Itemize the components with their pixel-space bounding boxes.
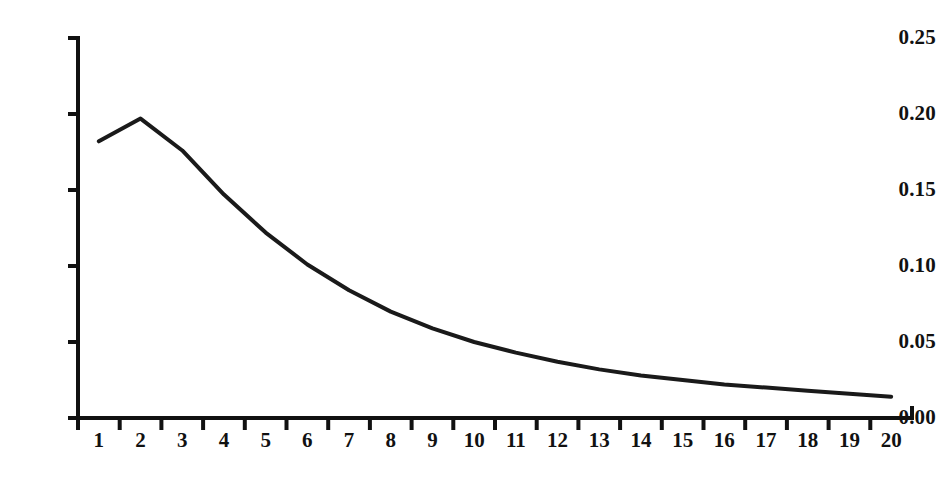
y-tick-label: 0.10 [874, 255, 936, 276]
y-tick-label: 0.20 [874, 103, 936, 124]
data-series-line [99, 119, 891, 397]
y-tick-label: 0.25 [874, 27, 936, 48]
x-tick-label: 13 [577, 430, 621, 451]
x-tick-label: 1 [77, 430, 121, 451]
y-tick-label: 0.05 [874, 331, 936, 352]
y-tick-label: 0.15 [874, 179, 936, 200]
x-tick-label: 6 [285, 430, 329, 451]
x-tick-label: 3 [160, 430, 204, 451]
x-tick-label: 14 [619, 430, 663, 451]
x-tick-label: 15 [661, 430, 705, 451]
chart-plot-area [0, 0, 936, 488]
y-tick-label: 0.00 [874, 407, 936, 428]
x-tick-label: 18 [786, 430, 830, 451]
x-tick-label: 20 [869, 430, 913, 451]
x-tick-label: 12 [536, 430, 580, 451]
x-tick-label: 10 [452, 430, 496, 451]
x-tick-label: 8 [369, 430, 413, 451]
x-axis-ticks [78, 406, 912, 430]
x-tick-label: 17 [744, 430, 788, 451]
x-tick-label: 5 [244, 430, 288, 451]
x-tick-label: 2 [119, 430, 163, 451]
x-tick-label: 19 [827, 430, 871, 451]
x-tick-label: 4 [202, 430, 246, 451]
x-tick-label: 11 [494, 430, 538, 451]
x-tick-label: 16 [702, 430, 746, 451]
line-chart: 0.000.050.100.150.200.25 123456789101112… [0, 0, 936, 488]
x-tick-label: 9 [410, 430, 454, 451]
x-tick-label: 7 [327, 430, 371, 451]
axes-group [78, 38, 912, 418]
